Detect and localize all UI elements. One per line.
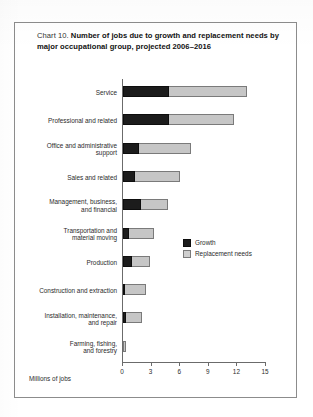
stacked-bar (123, 171, 180, 182)
bar-row: Farming, fishing,and forestry (122, 334, 265, 362)
bar-segment-replacement (139, 143, 190, 154)
legend-swatch-replacement-icon (183, 250, 191, 258)
bar-row: Professional and related (122, 107, 265, 135)
chart-title-prefix: Chart 10. (37, 31, 71, 40)
bar-segment-growth (123, 256, 132, 267)
x-axis-tick (122, 362, 123, 366)
x-axis-tick (151, 362, 152, 366)
bar-segment-growth (123, 143, 139, 154)
chart-legend: Growth Replacement needs (183, 238, 252, 260)
stacked-bar (123, 312, 142, 323)
bar-row: Service (122, 79, 265, 107)
bar-segment-growth (123, 171, 135, 182)
chart-title-main: Number of jobs due to growth and replace… (37, 31, 279, 51)
chart-frame: Chart 10. Number of jobs due to growth a… (14, 22, 297, 398)
stacked-bar (123, 341, 126, 352)
x-axis-tick-label: 0 (112, 368, 132, 375)
category-label: Transportation andmaterial moving (5, 227, 117, 242)
x-axis-tick-label: 3 (141, 368, 161, 375)
stacked-bar (123, 143, 191, 154)
x-axis-tick (208, 362, 209, 366)
stacked-bar (123, 256, 150, 267)
category-label: Management, business,and financial (5, 199, 117, 214)
category-label: Construction and extraction (5, 287, 117, 295)
legend-label-growth: Growth (195, 238, 216, 247)
x-axis-tick (179, 362, 180, 366)
category-label: Farming, fishing,and forestry (5, 340, 117, 355)
legend-swatch-growth-icon (183, 239, 191, 247)
stacked-bar (123, 284, 146, 295)
x-axis-title: Millions of jobs (29, 375, 71, 382)
bar-row: Construction and extraction (122, 277, 265, 305)
bar-segment-replacement (169, 86, 247, 97)
stacked-bar (123, 228, 154, 239)
bar-segment-replacement (135, 171, 180, 182)
category-label: Sales and related (5, 174, 117, 182)
bar-segment-replacement (126, 312, 142, 323)
x-axis-tick (265, 362, 266, 366)
x-axis-tick (236, 362, 237, 366)
legend-label-replacement: Replacement needs (195, 249, 252, 258)
stacked-bar (123, 199, 168, 210)
bar-segment-replacement (123, 341, 126, 352)
plot-area: ServiceProfessional and relatedOffice an… (122, 79, 265, 362)
category-label: Office and administrativesupport (5, 142, 117, 157)
legend-item-replacement: Replacement needs (183, 249, 252, 258)
x-axis-tick-label: 15 (255, 368, 275, 375)
bar-row: Management, business,and financial (122, 192, 265, 220)
stacked-bar (123, 86, 247, 97)
category-label: Service (5, 89, 117, 97)
bar-segment-replacement (125, 284, 146, 295)
chart-title: Chart 10. Number of jobs due to growth a… (37, 31, 287, 52)
x-axis-line: 03691215 (122, 362, 265, 363)
bar-row: Sales and related (122, 164, 265, 192)
bar-segment-growth (123, 86, 169, 97)
category-label: Professional and related (5, 118, 117, 126)
bar-segment-growth (123, 199, 141, 210)
bar-row: Installation, maintenance,and repair (122, 305, 265, 333)
bar-segment-replacement (169, 114, 234, 125)
x-axis-tick-label: 9 (198, 368, 218, 375)
category-label: Production (5, 259, 117, 267)
bar-row: Office and administrativesupport (122, 136, 265, 164)
x-axis-tick-label: 12 (226, 368, 246, 375)
bar-segment-replacement (129, 228, 155, 239)
bar-segment-replacement (132, 256, 150, 267)
bar-segment-growth (123, 114, 169, 125)
bar-segment-replacement (141, 199, 168, 210)
stacked-bar (123, 114, 234, 125)
category-label: Installation, maintenance,and repair (5, 312, 117, 327)
legend-item-growth: Growth (183, 238, 252, 247)
x-axis-tick-label: 6 (169, 368, 189, 375)
